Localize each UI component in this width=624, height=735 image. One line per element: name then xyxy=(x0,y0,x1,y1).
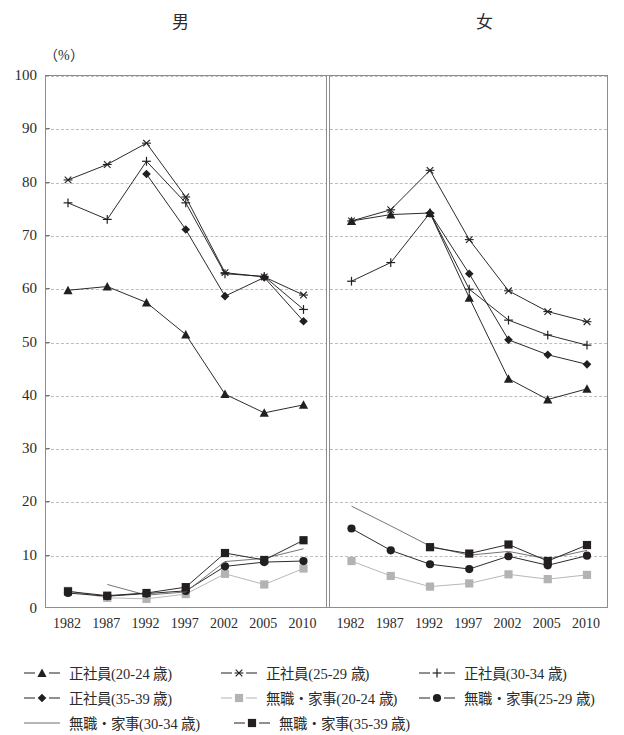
chart-legend: 正社員(20-24 歳)正社員(25-29 歳)正社員(30-34 歳)正社員(… xyxy=(22,660,614,735)
data-point-plus xyxy=(504,316,513,325)
legend-item-label: 正社員(25-29 歳) xyxy=(266,662,369,683)
y-tick-label: 20 xyxy=(0,493,37,510)
data-point-square xyxy=(260,556,268,564)
data-point-square xyxy=(583,571,591,579)
data-point-plus xyxy=(221,269,230,278)
data-point-square xyxy=(544,575,552,583)
y-tick-mark xyxy=(45,555,50,556)
legend-item[interactable]: 無職・家事(20-24 歳) xyxy=(219,687,416,708)
legend-item-label: 正社員(30-34 歳) xyxy=(464,662,567,683)
series-diamond xyxy=(142,170,308,326)
data-point-plus xyxy=(64,198,73,207)
legend-row: 無職・家事(30-34 歳)無職・家事(35-39 歳) xyxy=(22,710,614,735)
data-point-triangle xyxy=(220,390,229,399)
series-none xyxy=(107,549,303,595)
data-point-triangle xyxy=(37,668,46,677)
legend-row: 正社員(20-24 歳)正社員(25-29 歳)正社員(30-34 歳) xyxy=(22,660,614,685)
data-point-plus xyxy=(543,331,552,340)
data-point-star xyxy=(543,308,552,315)
data-point-diamond xyxy=(583,360,592,369)
y-tick-label: 50 xyxy=(0,333,37,350)
panel-title-male: 男 xyxy=(150,8,210,33)
plain-line-icon xyxy=(22,716,62,730)
legend-item-label: 正社員(35-39 歳) xyxy=(69,687,172,708)
data-point-plus xyxy=(386,258,395,267)
y-tick-mark xyxy=(45,235,50,236)
data-point-triangle xyxy=(181,330,190,339)
series-square xyxy=(347,557,591,591)
data-point-circle xyxy=(387,546,395,554)
series-triangle xyxy=(347,208,592,403)
data-point-square xyxy=(544,557,552,565)
line-triangle-marker-icon xyxy=(22,666,62,680)
legend-item[interactable]: 無職・家事(35-39 歳) xyxy=(232,712,442,733)
data-point-diamond xyxy=(142,170,151,179)
data-point-triangle xyxy=(504,374,513,383)
data-point-star xyxy=(465,236,474,243)
series-layer xyxy=(46,76,609,609)
legend-item[interactable]: 正社員(35-39 歳) xyxy=(22,687,219,708)
data-point-star xyxy=(426,167,435,174)
line-square-marker-light-icon xyxy=(219,691,259,705)
data-point-circle xyxy=(299,557,307,565)
data-point-square xyxy=(465,549,473,557)
data-point-triangle xyxy=(582,384,591,393)
legend-item-label: 正社員(20-24 歳) xyxy=(69,662,172,683)
data-point-square xyxy=(182,583,190,591)
data-point-diamond xyxy=(181,225,190,234)
data-point-circle xyxy=(426,560,434,568)
data-point-star xyxy=(64,177,73,184)
data-point-circle xyxy=(465,565,473,573)
legend-row: 正社員(35-39 歳)無職・家事(20-24 歳)無職・家事(25-29 歳) xyxy=(22,685,614,710)
legend-item[interactable]: 正社員(30-34 歳) xyxy=(417,662,614,683)
data-point-square xyxy=(142,589,150,597)
data-point-diamond xyxy=(543,350,552,359)
y-tick-mark xyxy=(45,75,50,76)
y-tick-label: 0 xyxy=(0,600,37,617)
data-point-circle xyxy=(347,524,355,532)
y-axis-unit-label: （%） xyxy=(44,44,84,64)
y-tick-label: 40 xyxy=(0,386,37,403)
data-point-circle xyxy=(583,552,591,560)
legend-item-label: 無職・家事(35-39 歳) xyxy=(279,712,410,733)
y-tick-mark xyxy=(45,448,50,449)
data-point-square xyxy=(64,587,72,595)
y-tick-label: 70 xyxy=(0,226,37,243)
data-point-star xyxy=(235,669,244,676)
series-plus xyxy=(64,157,308,314)
y-tick-label: 80 xyxy=(0,173,37,190)
y-tick-mark xyxy=(45,128,50,129)
series-diamond xyxy=(426,209,592,369)
line-diamond-marker-icon xyxy=(22,691,62,705)
data-point-plus xyxy=(347,277,356,286)
data-point-star xyxy=(103,161,112,168)
legend-item[interactable]: 正社員(20-24 歳) xyxy=(22,662,219,683)
legend-item[interactable]: 無職・家事(30-34 歳) xyxy=(22,712,232,733)
legend-item-label: 無職・家事(30-34 歳) xyxy=(69,712,200,733)
data-point-diamond xyxy=(465,269,474,278)
data-point-square xyxy=(299,564,307,572)
data-point-square xyxy=(504,540,512,548)
data-point-plus xyxy=(465,285,474,294)
legend-item[interactable]: 正社員(25-29 歳) xyxy=(219,662,416,683)
data-point-triangle xyxy=(299,400,308,409)
y-tick-label: 10 xyxy=(0,546,37,563)
plot-area xyxy=(45,75,608,608)
y-tick-mark xyxy=(45,288,50,289)
data-point-star xyxy=(583,318,592,325)
legend-item-label: 無職・家事(20-24 歳) xyxy=(266,687,397,708)
data-point-square xyxy=(504,570,512,578)
line-plus-marker-icon xyxy=(417,666,457,680)
data-point-star xyxy=(299,292,308,299)
y-tick-mark xyxy=(45,395,50,396)
line-square-marker-dark-icon xyxy=(232,716,272,730)
series-circle xyxy=(347,524,591,573)
data-point-square xyxy=(426,583,434,591)
x-tick-label: 2010 xyxy=(280,616,326,632)
data-point-square xyxy=(299,536,307,544)
data-point-triangle xyxy=(103,282,112,291)
y-tick-label: 100 xyxy=(0,67,37,84)
legend-item[interactable]: 無職・家事(25-29 歳) xyxy=(417,687,614,708)
data-point-square xyxy=(221,570,229,578)
data-point-square xyxy=(426,543,434,551)
